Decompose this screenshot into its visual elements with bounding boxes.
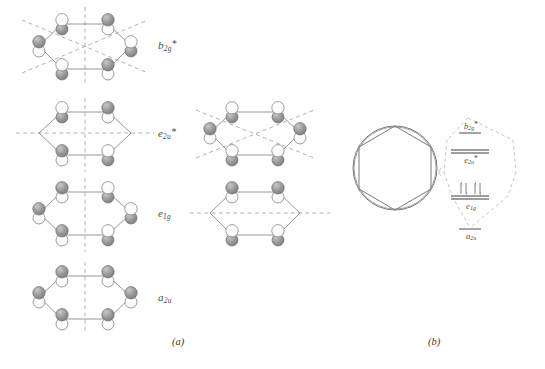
delocalised-ring-model [353,126,437,210]
ring-skeleton [210,192,300,235]
mo-label-e1g: e1g [158,206,172,221]
mo-label-b2g-star: b2g* [158,38,177,53]
benzene-mo-diagram [0,0,545,369]
mo-diagram-e2u-star-right [196,102,314,166]
electron-arrows [461,183,480,194]
mo-diagram-b2g-star [22,7,148,86]
p-orbital-set [204,102,306,166]
level-label-a2u: a2u [455,230,487,241]
panel-caption-a: (a) [172,336,184,347]
energy-level-e1g [451,183,489,199]
mo-diagram-e1g-left [33,178,137,252]
mo-label-e2u-star: e2u* [158,126,177,141]
p-orbital-set [226,182,284,246]
mo-diagram-a2u [33,262,137,334]
figure-canvas: b2g* e2u* e1g a2u b2g* e2u* e1g a2u (a) … [0,0,545,369]
level-label-b2g-star: b2g* [455,120,487,131]
node-lines [16,98,154,172]
ring-skeleton [210,112,300,155]
mo-label-a2u: a2u [158,290,172,305]
level-label-e2u-star: e2u* [455,154,487,165]
level-label-e1g: e1g [455,200,487,211]
energy-level-e2u-star [451,150,489,153]
splitting-envelope [439,118,516,228]
mo-diagram-e2u-star-left [16,98,154,172]
mo-diagram-e1g-right [190,182,330,246]
energy-level-diagram [439,118,516,229]
panel-caption-b: (b) [428,336,440,347]
